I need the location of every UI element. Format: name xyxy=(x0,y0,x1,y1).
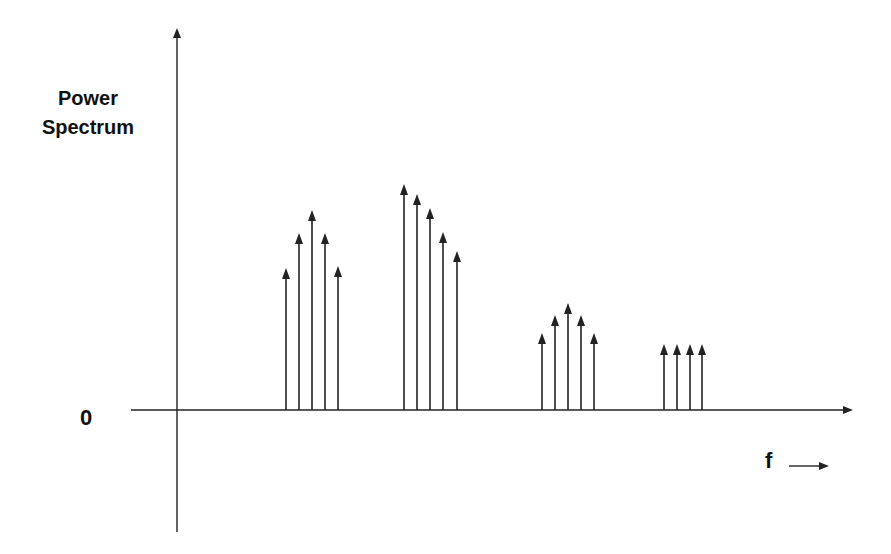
spectral-line-arrowhead-icon xyxy=(686,344,694,355)
spectral-line-arrowhead-icon xyxy=(698,344,706,355)
spectral-line-arrowhead-icon xyxy=(673,344,681,355)
spectral-line-arrowhead-icon xyxy=(321,233,329,244)
spectral-line-arrowhead-icon xyxy=(295,233,303,244)
spectral-line-arrowhead-icon xyxy=(564,303,572,314)
spectral-line-group-4 xyxy=(660,344,706,410)
frequency-arrow-arrowhead-icon xyxy=(819,462,829,470)
x-axis-arrowhead-icon xyxy=(843,406,853,414)
spectral-line-arrowhead-icon xyxy=(453,251,461,262)
spectral-line-group-1 xyxy=(282,210,342,410)
spectral-line-arrowhead-icon xyxy=(551,315,559,326)
spectral-line-arrowhead-icon xyxy=(334,266,342,277)
spectral-line-arrowhead-icon xyxy=(439,232,447,243)
spectral-line-arrowhead-icon xyxy=(538,333,546,344)
spectral-line-arrowhead-icon xyxy=(282,268,290,279)
y-axis-arrowhead-icon xyxy=(173,28,181,38)
spectral-line-arrowhead-icon xyxy=(660,344,668,355)
spectral-line-group-3 xyxy=(538,303,598,410)
spectral-line-arrowhead-icon xyxy=(590,333,598,344)
spectral-line-arrowhead-icon xyxy=(426,208,434,219)
spectral-line-arrowhead-icon xyxy=(308,210,316,221)
spectral-line-arrowhead-icon xyxy=(413,194,421,205)
spectral-line-arrowhead-icon xyxy=(577,315,585,326)
spectral-line-arrowhead-icon xyxy=(400,184,408,195)
spectral-line-group-2 xyxy=(400,184,461,410)
power-spectrum-plot xyxy=(0,0,891,554)
frequency-arrow-icon xyxy=(789,462,829,470)
spectral-lines xyxy=(282,184,706,410)
axes xyxy=(131,28,853,532)
